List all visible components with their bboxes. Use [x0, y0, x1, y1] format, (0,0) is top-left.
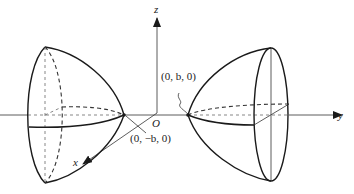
- hyperboloid-diagram: z y x O (0, b, 0) (0, −b, 0): [0, 0, 354, 194]
- leader-negative-vertex: [126, 116, 146, 133]
- x-axis-label: x: [72, 156, 78, 168]
- z-axis-label: z: [153, 3, 159, 15]
- negative-vertex-label: (0, −b, 0): [130, 132, 171, 145]
- leader-positive-vertex: [178, 93, 188, 114]
- negative-vertex-point: [122, 113, 126, 117]
- positive-vertex-label: (0, b, 0): [161, 70, 196, 83]
- origin-label: O: [152, 117, 160, 129]
- y-axis-label: y: [337, 109, 343, 121]
- right-sheet: [188, 48, 289, 181]
